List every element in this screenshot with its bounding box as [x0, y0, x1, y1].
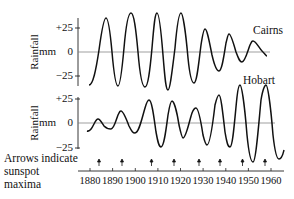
arrow-up-icon: [264, 159, 267, 166]
x-tick-1910: 1910: [147, 175, 168, 186]
cairns-unit-label: mm: [39, 45, 57, 57]
x-tick-1950: 1950: [238, 175, 259, 186]
x-tick-1900: 1900: [125, 175, 146, 186]
hobart-label: Hobart: [243, 74, 276, 86]
note-line-2: sunspot: [4, 165, 78, 178]
x-tick-1880: 1880: [80, 175, 101, 186]
x-tick-1930: 1930: [193, 175, 214, 186]
x-axis: 1880 1890 1900 1910 1920 1930 1940 1950 …: [78, 168, 284, 186]
x-tick-1960: 1960: [261, 175, 282, 186]
arrow-up-icon: [241, 159, 244, 166]
note-line-1: Arrows indicate: [4, 152, 78, 165]
cairns-rainfall-curve: [89, 13, 267, 90]
hobart-y-label: Rainfall: [28, 105, 40, 140]
arrow-up-icon: [198, 159, 201, 166]
cairns-label: Cairns: [253, 24, 284, 36]
hobart-tick-zero: 0: [68, 116, 74, 128]
cairns-tick-neg: −25: [56, 69, 74, 81]
x-tick-1920: 1920: [170, 175, 191, 186]
arrow-up-icon: [219, 159, 222, 166]
arrow-up-icon: [173, 159, 176, 166]
arrow-up-icon: [121, 159, 124, 166]
hobart-tick-pos: +25: [56, 92, 74, 104]
arrow-up-icon: [98, 159, 101, 166]
x-tick-1940: 1940: [215, 175, 236, 186]
sunspot-arrows: [98, 159, 267, 166]
cairns-tick-zero: 0: [68, 45, 74, 57]
x-tick-1890: 1890: [102, 175, 123, 186]
sunspot-note: Arrows indicate sunspot maxima: [4, 152, 78, 191]
hobart-unit-label: mm: [39, 116, 57, 128]
cairns-tick-pos: +25: [56, 21, 74, 33]
hobart-panel: +25 0 −25 mm Rainfall Hobart: [28, 74, 284, 162]
arrow-up-icon: [150, 159, 153, 166]
note-line-3: maxima: [4, 178, 78, 191]
cairns-y-label: Rainfall: [28, 34, 40, 69]
hobart-rainfall-curve: [87, 85, 284, 162]
